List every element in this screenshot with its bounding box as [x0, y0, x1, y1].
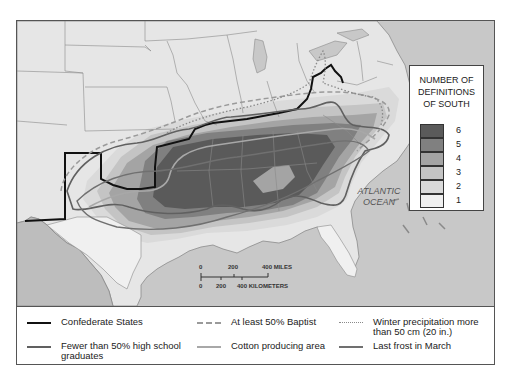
swatch-label-1: 1 [456, 195, 461, 205]
definitions-legend: NUMBER OF DEFINITIONS OF SOUTH 6 5 4 3 2… [409, 65, 484, 211]
solid-black-line-icon [27, 322, 51, 324]
key-label: Confederate States [61, 317, 143, 327]
swatch-label-5: 5 [456, 139, 461, 149]
dashed-line-icon [197, 322, 221, 324]
key-cotton: Cotton producing area [197, 341, 325, 351]
swatch-2 [420, 180, 444, 194]
swatch-5 [420, 138, 444, 152]
key-label: Winter precipitation more than 50 cm (20… [373, 317, 479, 337]
legend-title-line2: DEFINITIONS [410, 86, 483, 98]
legend-title-line3: OF SOUTH [410, 98, 483, 110]
swatch-label-4: 4 [456, 153, 461, 163]
legend-title-line1: NUMBER OF [410, 74, 483, 86]
solid-dark-gray-line-icon [27, 346, 51, 348]
legend-title: NUMBER OF DEFINITIONS OF SOUTH [410, 74, 483, 110]
swatch-label-6: 6 [456, 125, 461, 135]
key-label: Fewer than 50% high school graduates [61, 341, 181, 361]
solid-light-gray-line-icon [197, 346, 221, 348]
ocean-label-line1: ATLANTIC [349, 186, 409, 197]
key-winter-precipitation: Winter precipitation more than 50 cm (20… [339, 317, 479, 337]
key-label: Cotton producing area [231, 341, 325, 351]
atlantic-ocean-label: ATLANTIC OCEAN [349, 186, 409, 208]
key-confederate-states: Confederate States [27, 317, 143, 327]
key-label-line2: than 50 cm (20 in.) [373, 327, 479, 337]
swatch-6 [420, 124, 444, 138]
swatch-3 [420, 166, 444, 180]
swatch-1 [420, 194, 444, 208]
swatch-label-2: 2 [456, 181, 461, 191]
key-high-school: Fewer than 50% high school graduates [27, 341, 181, 361]
scale-km-400: 400 KILOMETERS [237, 283, 288, 289]
key-label-line2: graduates [61, 351, 181, 361]
dotted-line-icon [339, 322, 363, 323]
scale-miles-200: 200 [228, 264, 238, 270]
map-divider [17, 306, 494, 307]
swatch-4 [420, 152, 444, 166]
key-baptist: At least 50% Baptist [197, 317, 316, 327]
key-label: Last frost in March [373, 341, 451, 351]
scale-miles-0: 0 [199, 264, 202, 270]
key-label: At least 50% Baptist [231, 317, 316, 327]
solid-medium-gray-line-icon [339, 346, 363, 348]
map-figure: 0 200 400 MILES 0 200 400 KILOMETERS ATL… [16, 20, 495, 365]
swatch-label-3: 3 [456, 167, 461, 177]
key-last-frost: Last frost in March [339, 341, 451, 351]
scale-km-0: 0 [199, 283, 202, 289]
scale-km-200: 200 [216, 283, 226, 289]
scale-miles-400: 400 MILES [262, 264, 292, 270]
ocean-label-line2: OCEAN [349, 197, 409, 208]
